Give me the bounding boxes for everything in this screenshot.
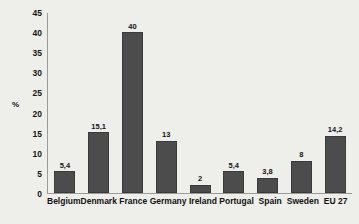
bar — [88, 132, 109, 193]
bar-slot: 8 — [284, 13, 318, 193]
y-axis-title: % — [12, 100, 19, 109]
x-axis-tick-labels: BelgiumDenmarkFranceGermanyIrelandPortug… — [47, 197, 352, 211]
x-axis-category-label: Sweden — [287, 197, 320, 211]
bar-slot: 2 — [183, 13, 217, 193]
y-axis-tick-labels: 454035302520151050 — [20, 0, 42, 224]
y-axis-tick: 5 — [20, 170, 42, 179]
bar-slot: 5,4 — [48, 13, 82, 193]
bar — [122, 32, 143, 193]
x-axis-category-label: Germany — [150, 197, 187, 211]
y-axis-tick: 10 — [20, 150, 42, 159]
bar-value-label: 3,8 — [262, 168, 272, 176]
x-axis-category-label: Spain — [254, 197, 287, 211]
bar-value-label: 5,4 — [60, 162, 70, 170]
y-axis-tick: 15 — [20, 129, 42, 138]
x-axis-category-label: EU 27 — [319, 197, 352, 211]
y-axis-tick: 35 — [20, 49, 42, 58]
y-axis-tick: 25 — [20, 89, 42, 98]
bar-value-label: 5,4 — [229, 162, 239, 170]
bar — [257, 178, 278, 193]
bar — [156, 141, 177, 193]
x-axis-category-label: Denmark — [81, 197, 117, 211]
x-axis-category-label: Belgium — [47, 197, 81, 211]
y-axis-tick: 45 — [20, 9, 42, 18]
bar-slot: 40 — [116, 13, 150, 193]
bar-value-label: 2 — [198, 175, 202, 183]
bar-value-label: 8 — [299, 151, 303, 159]
x-axis-category-label: Ireland — [187, 197, 220, 211]
x-axis-category-label: Portugal — [219, 197, 253, 211]
y-axis-tick: 30 — [20, 69, 42, 78]
bar-value-label: 14,2 — [328, 126, 343, 134]
bar-slot: 3,8 — [251, 13, 285, 193]
y-axis-tick: 0 — [20, 190, 42, 199]
y-axis-tick: 20 — [20, 109, 42, 118]
bar-slot: 14,2 — [318, 13, 352, 193]
bar — [190, 185, 211, 193]
y-axis-tick: 40 — [20, 29, 42, 38]
plot-area: 5,415,1401325,43,8814,2 — [47, 13, 352, 194]
bar — [223, 171, 244, 193]
bar-value-label: 15,1 — [91, 123, 106, 131]
bar-value-label: 40 — [128, 23, 136, 31]
bar — [291, 161, 312, 193]
x-axis-category-label: France — [117, 197, 150, 211]
bar-slot: 15,1 — [82, 13, 116, 193]
bar — [54, 171, 75, 193]
bar-chart: % 454035302520151050 5,415,1401325,43,88… — [0, 0, 359, 224]
bar-series: 5,415,1401325,43,8814,2 — [48, 13, 352, 193]
bar-slot: 13 — [149, 13, 183, 193]
bar-slot: 5,4 — [217, 13, 251, 193]
bar — [325, 136, 346, 193]
bar-value-label: 13 — [162, 131, 170, 139]
